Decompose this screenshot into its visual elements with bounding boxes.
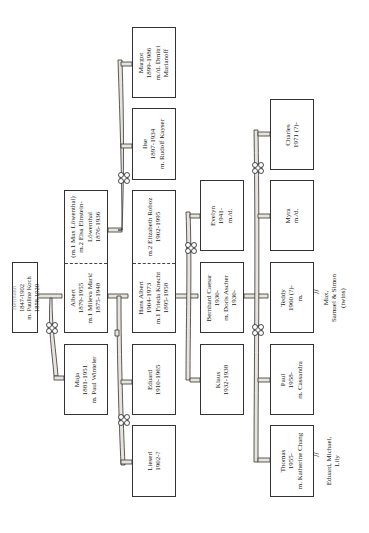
person-name: Hans Albert [137, 272, 145, 324]
person-box-margot: Margot 1899-1986 m./d. Dmitri Marianoff [132, 27, 176, 98]
person-name: Maja [73, 356, 81, 403]
person-name: Teddy [279, 285, 287, 311]
person-name: Charles [284, 122, 292, 148]
primary-section-hans-albert: Hans Albert 1904-1973 m.1 Frieda Knecht … [133, 263, 175, 333]
person-name: Evelyn [209, 206, 217, 226]
person-name: Ilse [141, 119, 149, 169]
person-name: Klaus [214, 364, 222, 394]
primary-section-albert: Albert 1879-1955 m.1 Mileva Marić 1875-1… [65, 263, 107, 333]
person-box-paul: Paul 1958- m. Cassandra [270, 344, 314, 415]
person-name: Margot [137, 45, 145, 80]
person-box-ilse: Ilse 1897-1934 m. Rudolf Kayser [132, 108, 176, 180]
person-name: Eduard [146, 364, 154, 394]
note-thomas-children: Eduard, Michael, Lily [318, 425, 348, 497]
note-teddy-children: Max, Samuel & Simon (twins) [318, 262, 352, 333]
person-name: Albert [69, 273, 77, 324]
person-box-eduard: Eduard 1910-1965 [132, 344, 176, 415]
spouse-section-elizabeth: m.2 Elizabeth Roboz 1902-1995 [133, 191, 175, 263]
person-box-hans-albert: m.2 Elizabeth Roboz 1902-1995 Hans Alber… [132, 190, 176, 333]
person-box-charles: Charles 1971 (?)- [270, 99, 314, 170]
person-name: Lieserl [146, 451, 154, 470]
person-name: Hermann [10, 276, 18, 320]
person-box-maja: Maja 1881-1951 m. Paul Winteler [64, 344, 108, 415]
person-name: Bernhard Caesar [205, 274, 213, 321]
person-name: Paul [279, 361, 287, 399]
person-box-evelyn: Evelyn 1941- m./d. [200, 180, 244, 251]
person-name: Thomas [279, 433, 287, 490]
person-box-hermann: Hermann 1847-1902 m. Pauline Koch 1858-1… [12, 262, 38, 333]
person-box-klaus: Klaus 1932-1938 [200, 344, 244, 415]
person-name: Myra [284, 208, 292, 223]
person-box-lieserl: Lieserl 1902-? [132, 425, 176, 497]
person-box-bernhard: Bernhard Caesar 1930- m. Doris Ascher 19… [200, 262, 244, 333]
spouse-section-elsa: (m.1 Max Löwenthal) m.2 Elsa Einstein- L… [65, 191, 107, 263]
person-box-albert: (m.1 Max Löwenthal) m.2 Elsa Einstein- L… [64, 190, 108, 333]
person-box-myra: Myra m./d. [270, 180, 314, 251]
family-tree-diagram: Hermann 1847-1902 m. Pauline Koch 1858-1… [0, 0, 369, 533]
person-box-teddy: Teddy 1960 (?)- m. [270, 262, 314, 333]
person-box-thomas: Thomas 1955- m. Katherine Chang [270, 425, 314, 497]
